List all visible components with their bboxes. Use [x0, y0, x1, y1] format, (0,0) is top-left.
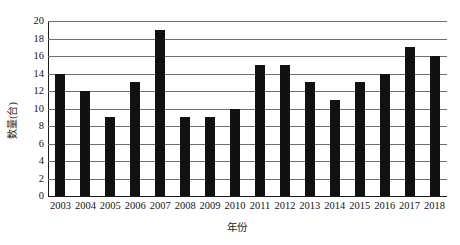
y-axis-tick-label: 20	[4, 16, 44, 26]
y-axis-tick-label: 8	[4, 121, 44, 131]
y-axis-tick-label: 10	[4, 104, 44, 114]
y-axis-tick-label: 16	[4, 51, 44, 61]
x-axis-title: 年份	[0, 219, 460, 234]
y-axis-tick-labels: 02468101214161820	[0, 21, 44, 197]
bar-2015	[355, 82, 365, 196]
bar-2007	[155, 30, 165, 196]
x-axis-tick-labels: 2003200420052006200720082009201020112012…	[48, 199, 447, 215]
x-axis-baseline	[48, 196, 447, 197]
x-axis-title-text: 年份	[227, 222, 247, 233]
bar-2011	[255, 65, 265, 196]
y-axis-tick-label: 2	[4, 174, 44, 184]
bar-2010	[230, 109, 240, 197]
bar-2013	[305, 82, 315, 196]
y-axis-tick-label: 6	[4, 139, 44, 149]
bar-2003	[55, 74, 65, 197]
y-axis-tick-label: 0	[4, 191, 44, 201]
bar-2004	[80, 91, 90, 196]
plot-area	[48, 21, 447, 196]
bar-2018	[430, 56, 440, 196]
y-axis-tick-label: 14	[4, 69, 44, 79]
bar-2012	[280, 65, 290, 196]
bar-2005	[105, 117, 115, 196]
y-axis-tick-label: 18	[4, 34, 44, 44]
bar-chart: 数量(台) 02468101214161820 2003200420052006…	[0, 0, 460, 245]
y-axis-tick-label: 4	[4, 156, 44, 166]
bar-2014	[330, 100, 340, 196]
bar-2016	[380, 74, 390, 197]
y-axis-tick-label: 12	[4, 86, 44, 96]
bar-2006	[130, 82, 140, 196]
bar-2008	[180, 117, 190, 196]
bar-2017	[405, 47, 415, 196]
x-axis-tick-label-2018: 2018	[418, 199, 452, 212]
bar-series	[48, 21, 447, 196]
bar-2009	[205, 117, 215, 196]
